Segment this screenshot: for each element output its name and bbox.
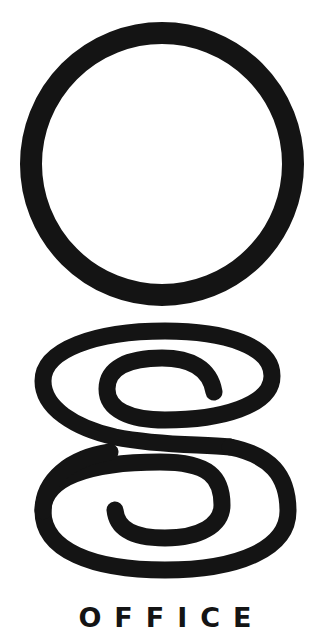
- wordmark: OFFICE: [0, 602, 330, 633]
- logo-mark: [0, 0, 330, 639]
- circle-icon: [31, 33, 293, 295]
- spiral-g-icon: [43, 331, 288, 570]
